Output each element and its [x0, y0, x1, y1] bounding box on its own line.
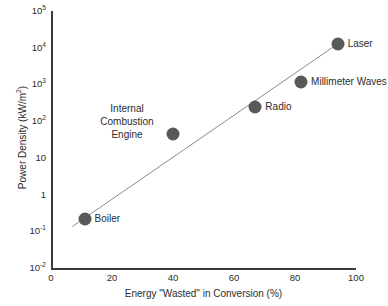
data-point-millimeter-waves[interactable]	[295, 75, 308, 88]
data-point-label-boiler: Boiler	[95, 213, 121, 225]
data-point-laser[interactable]	[331, 37, 344, 50]
y-tick-exponent: 3	[42, 78, 46, 85]
label-line: Engine	[91, 127, 163, 140]
data-point-label-internal-combustion-engine: InternalCombustionEngine	[91, 101, 163, 140]
y-tick-exponent: 4	[42, 41, 46, 48]
y-tick-label: 10-2	[0, 263, 46, 273]
y-axis-title-exponent: 2	[15, 89, 22, 93]
chart-canvas: 10510410310210110-110-2 020406080100 Boi…	[0, 0, 388, 306]
y-tick-exponent: -1	[40, 224, 46, 231]
y-axis-title: Power Density (kW/m2)	[17, 58, 28, 218]
x-tick-1: 20	[107, 272, 118, 283]
y-tick-6: 10-1	[0, 231, 46, 241]
x-tick-2: 40	[168, 272, 179, 283]
data-point-label-millimeter-waves: Millimeter Waves	[311, 76, 387, 88]
y-axis-title-text: Power Density (kW/m	[17, 93, 28, 189]
y-tick-exponent: 2	[42, 114, 46, 121]
data-point-label-laser: Laser	[348, 38, 373, 50]
y-tick-label: 10-1	[0, 227, 46, 237]
x-tick-5: 100	[348, 272, 364, 283]
data-point-radio[interactable]	[249, 100, 262, 113]
x-tick-0: 0	[48, 272, 53, 283]
data-point-label-radio: Radio	[265, 101, 291, 113]
label-line: Combustion	[91, 114, 163, 127]
data-point-boiler[interactable]	[78, 212, 91, 225]
x-axis-title: Energy "Wasted" in Conversion (%)	[51, 288, 356, 299]
y-tick-exponent: -2	[40, 261, 46, 268]
y-tick-label: 104	[0, 43, 46, 53]
x-tick-3: 60	[229, 272, 240, 283]
y-axis-title-tail: )	[17, 86, 28, 89]
label-line: Internal	[91, 101, 163, 114]
data-point-internal-combustion-engine[interactable]	[167, 127, 180, 140]
y-tick-exponent: 5	[42, 4, 46, 11]
y-tick-7: 10-2	[0, 268, 46, 278]
y-tick-1: 104	[0, 48, 46, 58]
x-tick-4: 80	[290, 272, 301, 283]
y-tick-0: 105	[0, 11, 46, 21]
trend-line	[0, 0, 388, 306]
y-tick-label: 105	[0, 6, 46, 16]
